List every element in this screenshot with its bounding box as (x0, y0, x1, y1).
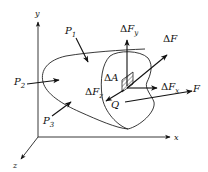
p3-label: P3 (42, 115, 55, 129)
external-force-p2: P2 (13, 76, 59, 90)
delta-fx-label: ΔFx (161, 81, 179, 95)
delta-fz-label: ΔFz (85, 86, 103, 100)
cut-section-outline (101, 52, 154, 129)
point-q-label: Q (111, 99, 119, 110)
stress-diagram: y x z ΔA Q ΔF ΔFy ΔFx ΔFz (0, 0, 208, 172)
p3-arrow (52, 102, 71, 116)
p1-arrow (76, 38, 88, 62)
delta-fy-label: ΔFy (120, 23, 139, 37)
delta-a-label: ΔA (104, 72, 118, 83)
f-arrow (125, 91, 192, 102)
y-axis-label: y (34, 9, 40, 18)
area-element-delta-a: ΔA (104, 72, 133, 92)
delta-f-label: ΔF (163, 33, 178, 44)
z-axis-label: z (12, 161, 18, 170)
z-axis (21, 137, 38, 159)
external-force-p1: P1 (64, 25, 88, 62)
x-axis-label: x (174, 133, 179, 142)
p1-label: P1 (64, 25, 76, 39)
f-label: F (192, 83, 201, 94)
internal-force-group: ΔF ΔFy ΔFx ΔFz (85, 23, 179, 101)
p2-label: P2 (13, 76, 26, 90)
external-force-p3: P3 (42, 102, 71, 129)
